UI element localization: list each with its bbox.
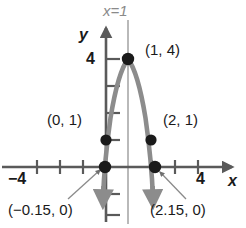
x-tick-label-negative-4: −4 xyxy=(8,171,26,187)
vertex-label: (1, 4) xyxy=(145,42,180,57)
plot-canvas xyxy=(0,0,246,228)
y-intercept-label: (0, 1) xyxy=(47,112,82,127)
point-root-left xyxy=(99,161,111,173)
root-right-label: (2.15, 0) xyxy=(150,202,206,217)
x-tick-label-4: 4 xyxy=(196,171,205,187)
point-root-right xyxy=(149,161,161,173)
point-y-intercept xyxy=(100,134,111,145)
y-axis-label: y xyxy=(79,27,88,43)
point-2-1 xyxy=(145,134,156,145)
root-left-label: (−0.15, 0) xyxy=(8,202,73,217)
leader-line-root-right xyxy=(160,172,186,199)
leader-line-root-left xyxy=(68,170,100,199)
x-axis-label: x xyxy=(228,173,237,189)
y-tick-label-4: 4 xyxy=(86,51,95,67)
axis-of-symmetry-label: x=1 xyxy=(103,3,128,18)
parabola-figure: x=1 y x 4 −4 4 (1, 4) (0, 1) (2, 1) (−0.… xyxy=(0,0,246,228)
point-2-1-label: (2, 1) xyxy=(163,112,198,127)
point-vertex xyxy=(122,53,134,65)
